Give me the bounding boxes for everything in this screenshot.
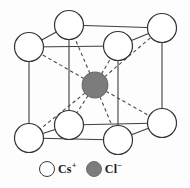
- cs-symbol: Cs: [58, 162, 72, 176]
- legend-item-cl: Cl−: [86, 161, 122, 177]
- cl-charge: −: [117, 160, 122, 170]
- cs-corner-ion-back-bottom-right: [148, 109, 177, 138]
- cs-corner-ion-back-top-right: [148, 14, 177, 43]
- cl-symbol: Cl: [105, 162, 117, 176]
- cl-ion-swatch-icon: [86, 161, 102, 177]
- cs-corner-ion-front-top-right: [104, 32, 133, 61]
- cscl-structure-figure: Cs+ Cl−: [0, 0, 190, 188]
- cs-corner-ion-front-bottom-left: [15, 124, 44, 153]
- cs-corner-ion-front-top-left: [15, 33, 44, 62]
- cl-center-ion: [82, 72, 108, 98]
- legend-label-cl: Cl−: [105, 163, 122, 175]
- cs-corner-ion-back-top-left: [55, 11, 84, 40]
- cs-corner-ion-back-bottom-left: [55, 111, 84, 140]
- cs-charge: +: [72, 160, 77, 170]
- legend-label-cs: Cs+: [58, 163, 77, 175]
- legend: Cs+ Cl−: [39, 159, 122, 179]
- cs-ion-swatch-icon: [39, 161, 55, 177]
- legend-item-cs: Cs+: [39, 161, 77, 177]
- cs-corner-ion-front-bottom-right: [104, 126, 133, 155]
